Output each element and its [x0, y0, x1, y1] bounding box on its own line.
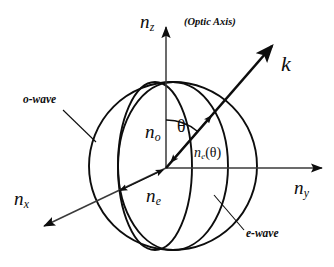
axis-label-nx: nx: [14, 189, 29, 211]
e-wave-ellipse-inner: [118, 82, 192, 250]
n-e-theta-label: ne(θ): [194, 146, 221, 161]
axis-label-nz: nz: [140, 12, 154, 34]
o-wave-label: o-wave: [23, 94, 56, 106]
theta-label: θ: [177, 117, 186, 135]
index-surface-diagram: [0, 0, 334, 267]
wavevector-label-k: k: [281, 53, 291, 75]
e-wave-ellipse-outer: [118, 82, 228, 250]
e-wave-label: e-wave: [246, 228, 279, 240]
n-o-label: no: [145, 122, 161, 144]
diagram-canvas: nz (Optic Axis) k o-wave no θ ne(θ) nx n…: [0, 0, 334, 267]
o-wave-sphere: [89, 82, 257, 250]
axis-label-ny: ny: [294, 178, 309, 200]
o-wave-leader-line: [63, 110, 96, 142]
optic-axis-note: (Optic Axis): [184, 17, 236, 28]
n-e-label: ne: [146, 186, 161, 208]
